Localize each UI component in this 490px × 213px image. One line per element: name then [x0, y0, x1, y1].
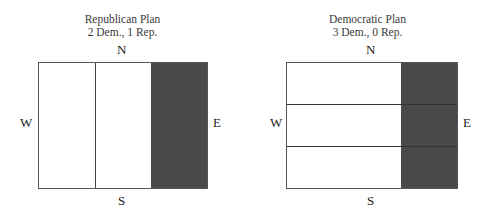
compass-north: N	[366, 43, 375, 57]
district-map	[286, 62, 458, 189]
compass-west: W	[20, 116, 32, 130]
compass-west: W	[270, 116, 282, 130]
plan-name: Republican Plan	[0, 13, 245, 26]
district-boundary	[287, 146, 457, 147]
republican-plan-panel: Republican Plan 2 Dem., 1 Rep. N W E S	[0, 0, 245, 213]
democratic-plan-title: Democratic Plan 3 Dem., 0 Rep.	[245, 13, 490, 39]
plan-name: Democratic Plan	[245, 13, 490, 26]
compass-east: E	[463, 116, 471, 130]
republican-plan-title: Republican Plan 2 Dem., 1 Rep.	[0, 13, 245, 39]
district-1	[39, 63, 95, 188]
compass-south: S	[367, 194, 374, 208]
plan-result: 3 Dem., 0 Rep.	[245, 26, 490, 39]
compass-east: E	[213, 116, 221, 130]
district-2	[96, 63, 151, 188]
shaded-east-region	[401, 63, 457, 188]
compass-south: S	[118, 194, 125, 208]
district-map	[38, 62, 208, 189]
democratic-plan-panel: Democratic Plan 3 Dem., 0 Rep. N W E S	[245, 0, 490, 213]
district-boundary	[287, 104, 457, 105]
plan-result: 2 Dem., 1 Rep.	[0, 26, 245, 39]
compass-north: N	[117, 43, 126, 57]
district-3-shaded	[151, 63, 207, 188]
